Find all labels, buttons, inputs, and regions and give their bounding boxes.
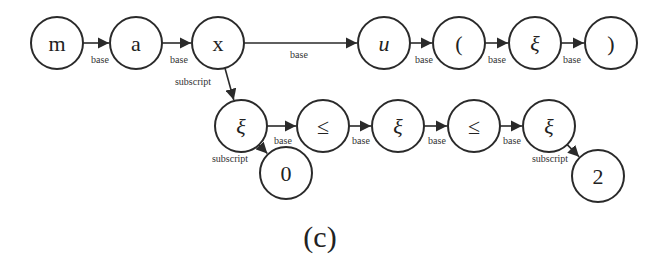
edge-base: base [162,43,191,65]
edge-base: base [561,43,584,65]
graph-node: ξ [509,17,561,69]
edge-base: base [83,43,109,65]
edge-label: base [563,54,581,65]
graph-node: 2 [572,150,624,202]
edge-base: base [267,126,296,146]
edge-subscript: subscript [175,68,234,100]
edge-label: base [170,54,188,65]
graph-node: ( [433,17,485,69]
edge-label: base [503,135,521,146]
node-label: m [48,31,65,56]
node-label: ≤ [317,114,329,139]
node-label: u [379,31,390,56]
edge-arrow [225,68,234,100]
nodes-layer: maxu(ξ)ξ≤ξ≤ξ02 [31,17,637,202]
expression-graph-diagram: basebasebasebasebasebasesubscriptbasebas… [0,0,663,273]
edge-base: base [485,43,508,65]
graph-node: ξ [372,100,424,152]
graph-node: a [110,17,162,69]
graph-node: m [31,17,83,69]
node-label: ξ [393,114,403,139]
edge-label: subscript [532,153,568,164]
edge-arrow [259,145,267,154]
edge-label: base [488,54,506,65]
edge-base: base [410,43,433,65]
graph-node: ) [585,17,637,69]
node-label: 0 [281,161,292,186]
node-label: ( [455,31,462,56]
node-label: a [131,31,141,56]
figure-caption: (c) [303,220,336,254]
graph-node: ξ [215,100,267,152]
graph-node: x [192,17,244,69]
edge-arrow [567,145,579,157]
graph-node: ≤ [297,100,349,152]
node-label: ξ [530,31,540,56]
graph-node: 0 [260,147,312,199]
edge-label: subscript [175,76,211,87]
edge-base: base [349,126,371,146]
node-label: 2 [593,164,604,189]
edge-base: base [244,43,357,60]
graph-node: u [358,17,410,69]
node-label: ξ [236,114,246,139]
edge-label: base [352,135,370,146]
graph-node: ≤ [448,100,500,152]
node-label: ) [607,31,614,56]
edge-label: base [428,135,446,146]
edge-base: base [500,126,522,146]
edge-label: base [91,54,109,65]
node-label: ξ [544,114,554,139]
edge-label: base [290,49,308,60]
edge-label: subscript [212,153,248,164]
graph-node: ξ [523,100,575,152]
edge-base: base [424,126,447,146]
edge-label: base [274,135,292,146]
node-label: x [213,31,224,56]
node-label: ≤ [468,114,480,139]
edge-label: base [415,54,433,65]
